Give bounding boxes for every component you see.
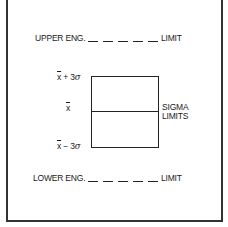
xbar-symbol: x <box>57 72 61 82</box>
upper-sigma-label: x + 3σ <box>57 73 80 82</box>
lower-limit-label: LIMIT <box>161 174 182 183</box>
upper-eng-label: UPPER ENG. <box>35 34 85 43</box>
lower-dash <box>88 181 98 182</box>
operator-text: − 3 <box>63 141 74 151</box>
lower-dash <box>118 181 128 182</box>
xbar-symbol: x <box>66 103 70 113</box>
lower-eng-label: LOWER ENG. <box>33 174 85 183</box>
limits-label: LIMITS <box>162 112 188 121</box>
upper-dash <box>133 41 143 42</box>
sigma-limits-box <box>91 76 159 148</box>
upper-dash <box>148 41 158 42</box>
upper-dash <box>88 41 98 42</box>
xbar-symbol: x <box>57 141 61 151</box>
upper-dash <box>118 41 128 42</box>
sigma-symbol: σ <box>75 141 81 151</box>
lower-dash <box>133 181 143 182</box>
upper-dash <box>103 41 113 42</box>
upper-limit-label: LIMIT <box>161 34 182 43</box>
lower-dash <box>103 181 113 182</box>
mean-label: x <box>66 104 70 113</box>
lower-sigma-label: x − 3σ <box>57 142 80 151</box>
mean-line <box>91 111 159 112</box>
sigma-symbol: σ <box>75 72 81 82</box>
operator-text: + 3 <box>63 72 74 82</box>
lower-dash <box>148 181 158 182</box>
